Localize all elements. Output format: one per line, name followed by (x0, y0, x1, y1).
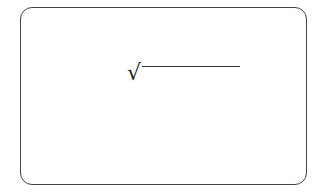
radical-expression: √ (0, 0, 325, 193)
radical-vinculum (142, 66, 240, 67)
square-root-icon: √ (127, 62, 141, 84)
